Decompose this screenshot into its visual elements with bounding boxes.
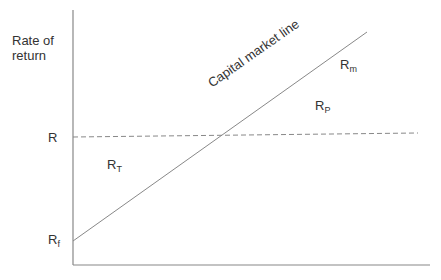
return-dashed-line [73,133,418,137]
rm-label: Rm [340,57,357,77]
y-axis-title-line2: return [12,48,54,63]
rp-label: RP [315,98,330,118]
rt-base: R [107,157,116,172]
rf-base: R [48,232,57,247]
y-axis-title: Rate of return [12,33,54,63]
tick-label-rf: Rf [48,232,60,252]
rm-sub: m [349,64,357,74]
rp-base: R [315,98,324,113]
diagram-canvas [0,0,441,280]
y-axis-title-line1: Rate of [12,33,54,48]
tick-label-r: R [48,130,57,145]
rm-base: R [340,57,349,72]
rt-label: RT [107,157,122,177]
rf-sub: f [57,239,60,249]
rt-sub: T [116,164,122,174]
rp-sub: P [324,105,330,115]
